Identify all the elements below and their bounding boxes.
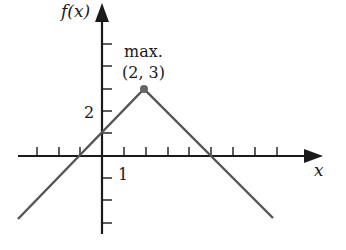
y-axis-arrow-icon	[95, 3, 109, 22]
x-axis-ticks	[37, 147, 277, 156]
y-tick-label: 2	[84, 103, 94, 122]
max-point	[140, 85, 148, 93]
x-tick-label: 1	[118, 165, 128, 184]
x-axis-label: x	[314, 160, 324, 180]
y-axis-label: f(x)	[59, 1, 90, 21]
max-coords-label: (2, 3)	[122, 63, 165, 82]
y-axis-ticks	[102, 44, 112, 223]
max-label: max.	[124, 42, 163, 61]
function-graph: f(x) x 1 2 max. (2, 3)	[0, 0, 346, 250]
